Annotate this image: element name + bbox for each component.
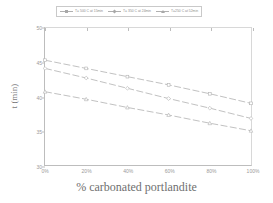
data-point-diamond: [249, 117, 253, 121]
data-point-square: [126, 75, 129, 78]
y-tick-mark: [42, 97, 45, 98]
x-tick-mark: [211, 28, 212, 31]
data-point-diamond: [208, 106, 212, 110]
legend-entry-series-1: T= 500 C at 15min: [60, 9, 103, 14]
x-tick-mark: [45, 28, 46, 31]
series-line: [45, 92, 251, 131]
x-tick-label: 100%: [247, 165, 260, 174]
legend-marker-triangle-icon: [156, 9, 169, 14]
data-point-diamond: [167, 97, 171, 101]
y-tick-mark: [42, 132, 45, 133]
x-tick-mark: [253, 28, 254, 31]
series-lines: [45, 28, 251, 165]
x-tick-mark: [128, 28, 129, 31]
x-tick-mark: [170, 28, 171, 31]
data-point-square: [208, 92, 211, 95]
legend-marker-square-icon: [60, 9, 73, 14]
data-point-diamond: [126, 86, 130, 90]
plot-canvas: [45, 28, 251, 165]
series-line: [45, 60, 251, 103]
x-tick-label: 20%: [82, 165, 92, 174]
x-tick-label: 40%: [123, 165, 133, 174]
y-tick-mark: [42, 62, 45, 63]
x-tick-mark: [87, 28, 88, 31]
legend-entry-series-2: T= 350 C at 24min: [108, 9, 151, 14]
legend-marker-diamond-icon: [108, 9, 121, 14]
y-axis-title: t (min): [9, 84, 19, 109]
x-axis-title: % carbonated portlandite: [0, 180, 273, 194]
legend-label-series-1: T= 500 C at 15min: [75, 9, 103, 14]
series-group: [43, 67, 253, 121]
data-point-triangle: [43, 90, 47, 93]
data-point-square: [167, 83, 170, 86]
x-tick-label: 60%: [165, 165, 175, 174]
x-tick-label: 80%: [206, 165, 216, 174]
legend-entry-series-3: T=250 C at 52min: [156, 9, 198, 14]
data-point-square: [250, 102, 253, 105]
x-tick-label: 0%: [41, 165, 48, 174]
data-point-diamond: [43, 67, 47, 71]
data-point-triangle: [126, 106, 130, 109]
legend-label-series-3: T=250 C at 52min: [171, 9, 198, 14]
data-point-diamond: [84, 76, 88, 80]
plot-area: 3035404550 0%20%40%60%80%100%: [44, 27, 252, 166]
chart-legend: T= 500 C at 15min T= 350 C at 24min T=25…: [56, 6, 202, 17]
data-point-square: [85, 67, 88, 70]
series-group: [44, 59, 253, 105]
legend-label-series-2: T= 350 C at 24min: [123, 9, 151, 14]
chart-figure: T= 500 C at 15min T= 350 C at 24min T=25…: [0, 0, 273, 203]
